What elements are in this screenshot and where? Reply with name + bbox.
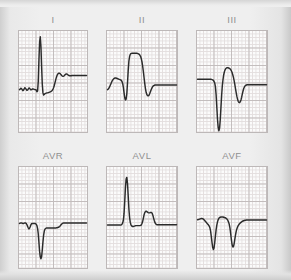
- ecg-lead-label-avf: AVF: [196, 150, 268, 162]
- ecg-lead-panel-iii: III: [196, 30, 268, 133]
- ecg-lead-panel-avf: AVF: [196, 166, 268, 269]
- ecg-trace-path-avf: [198, 217, 267, 250]
- ecg-lead-label-ii: II: [106, 14, 178, 26]
- ecg-trace-path-ii: [108, 53, 177, 100]
- ecg-waveform-ii: [106, 30, 178, 133]
- ecg-trace-path-avr: [20, 223, 87, 259]
- ecg-lead-panel-i: I: [18, 30, 88, 133]
- ecg-trace-path-iii: [198, 68, 267, 131]
- ecg-lead-label-i: I: [18, 14, 88, 26]
- ecg-lead-panel-avr: AVR: [18, 166, 88, 269]
- ecg-lead-label-avr: AVR: [18, 150, 88, 162]
- ecg-lead-grid: IIIIIIAVRAVLAVF: [0, 0, 291, 280]
- ecg-lead-label-avl: AVL: [106, 150, 178, 162]
- ecg-waveform-iii: [196, 30, 268, 133]
- ecg-waveform-avf: [196, 166, 268, 269]
- ecg-lead-panel-ii: II: [106, 30, 178, 133]
- ecg-waveform-avl: [106, 166, 178, 269]
- ecg-figure: IIIIIIAVRAVLAVF: [0, 0, 291, 280]
- ecg-waveform-avr: [18, 166, 88, 269]
- ecg-lead-label-iii: III: [196, 14, 268, 26]
- ecg-trace-path-avl: [108, 177, 177, 226]
- ecg-waveform-i: [18, 30, 88, 133]
- ecg-lead-panel-avl: AVL: [106, 166, 178, 269]
- ecg-trace-path-i: [20, 37, 87, 95]
